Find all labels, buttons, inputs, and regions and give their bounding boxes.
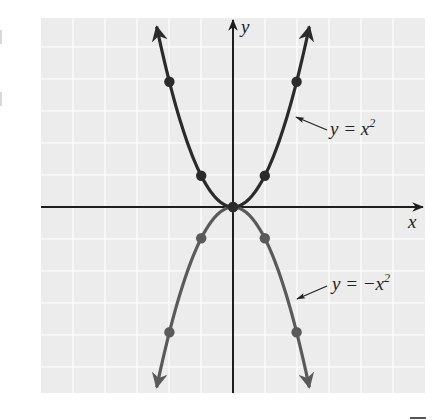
data-point: [196, 233, 206, 243]
page-edge-mark: [0, 30, 2, 44]
upper-curve-label: y = x2: [328, 116, 375, 139]
page-corner-mark: [410, 417, 426, 419]
data-point: [196, 171, 206, 181]
data-point: [260, 171, 270, 181]
data-point: [291, 77, 301, 87]
y-axis-label: y: [239, 16, 250, 37]
page-edge-mark: [0, 92, 2, 106]
data-point: [228, 202, 238, 212]
data-point: [291, 327, 301, 337]
x-axis-label: x: [407, 211, 417, 232]
data-point: [260, 233, 270, 243]
data-point: [164, 77, 174, 87]
parabola-chart: y x y = x2 y = −x2: [0, 0, 448, 420]
lower-curve-label: y = −x2: [330, 271, 390, 294]
data-point: [164, 327, 174, 337]
